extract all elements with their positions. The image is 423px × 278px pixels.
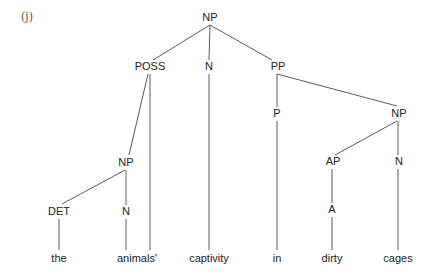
leaf-w_animals: animals'	[117, 252, 157, 264]
node-pp: PP	[271, 60, 286, 72]
node-n_captivity: N	[205, 60, 213, 72]
edge-np_root-to-pp	[210, 25, 272, 60]
node-n_animals: N	[122, 205, 130, 217]
edge-poss-to-np_inner	[129, 74, 148, 155]
node-ap: AP	[326, 155, 341, 167]
syntax-tree: (j) NPPOSSNPPPNPNPAPNDETNA theanimals'ca…	[0, 0, 423, 278]
node-np_root: NP	[202, 11, 217, 23]
edge-pp-to-np_right	[277, 74, 397, 106]
tree-leaves: theanimals'captivityindirtycages	[51, 252, 413, 264]
leaf-w_cages: cages	[383, 252, 413, 264]
node-np_inner: NP	[118, 156, 133, 168]
node-a: A	[328, 203, 336, 215]
edge-np_root-to-poss	[153, 25, 210, 60]
node-p: P	[273, 107, 280, 119]
node-poss: POSS	[135, 60, 166, 72]
tree-nodes: NPPOSSNPPPNPNPAPNDETNA	[48, 11, 407, 217]
edge-np_inner-to-det	[62, 170, 125, 204]
edge-np_root-to-n_captivity	[209, 25, 210, 60]
leaf-w_in: in	[273, 252, 282, 264]
tree-edges	[59, 25, 398, 250]
leaf-w_captivity: captivity	[189, 252, 229, 264]
example-label: (j)	[21, 9, 32, 23]
leaf-w_dirty: dirty	[322, 252, 343, 264]
node-n_cages: N	[395, 155, 403, 167]
edge-np_right-to-ap	[335, 121, 397, 155]
node-np_right: NP	[391, 107, 406, 119]
node-det: DET	[48, 205, 70, 217]
leaf-w_the: the	[51, 252, 66, 264]
